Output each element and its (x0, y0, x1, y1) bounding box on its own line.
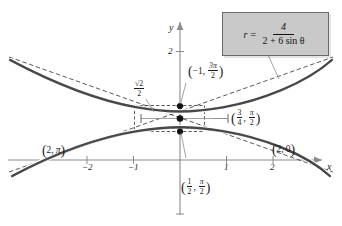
equation-numerator: 4 (273, 22, 294, 35)
y-tick-label-2: 2 (168, 47, 173, 56)
figure-canvas: r = 4 2 + 6 sin θ −2 −1 1 2 2 y x (−1, 3… (0, 0, 342, 226)
leader-upper-vertex (181, 83, 187, 104)
paren-close: ) (206, 182, 211, 193)
upper-vertex-r: −1 (193, 66, 203, 76)
hyperbola-curves-group (10, 60, 332, 176)
lower-vertex-theta: π2 (199, 178, 205, 196)
x-tick-label-1: 1 (224, 163, 229, 172)
y-axis-arrowhead (177, 22, 184, 30)
comma: , (243, 113, 247, 123)
left-intercept-label: (2, π) (42, 145, 65, 156)
paren-open: ( (42, 145, 47, 156)
equation-expression: r = 4 2 + 6 sin θ (243, 22, 307, 46)
center-dot (177, 115, 184, 122)
lower-vertex-label: (12, π2) (181, 179, 210, 197)
leader-equation-to-curve (268, 55, 279, 79)
equation-fraction: 4 2 + 6 sin θ (260, 22, 308, 46)
comma: , (203, 66, 207, 76)
x-tick-label--2: −2 (82, 163, 93, 172)
curve-halo-group (10, 60, 332, 176)
equation-denominator: 2 + 6 sin θ (260, 35, 308, 47)
upper-vertex-theta: 3π2 (208, 62, 218, 80)
x-tick-label--1: −1 (128, 163, 139, 172)
curve-highlight-group (10, 59, 332, 177)
comma: , (193, 182, 197, 192)
center-r: 34 (237, 109, 243, 127)
lower-vertex-r: 12 (187, 178, 193, 196)
sqrt-fraction: √22 (134, 80, 144, 98)
paren-close: ) (219, 66, 224, 77)
right-intercept-label: (2, 0) (272, 144, 295, 155)
point-markers-group (177, 103, 184, 135)
paren-open: ( (188, 66, 193, 77)
equation-lhs: r = (243, 29, 256, 40)
sqrt-numerator: √2 (134, 80, 144, 89)
x-tick-label-2: 2 (270, 163, 275, 172)
semi-axis-measure-label: √22 (133, 81, 145, 99)
paren-open: ( (272, 144, 277, 155)
upper-vertex-dot (177, 103, 183, 109)
lower-vertex-dot (177, 128, 183, 134)
sqrt-denominator: 2 (136, 89, 142, 97)
x-axis-label: x (327, 162, 331, 172)
paren-open: ( (181, 182, 186, 193)
leader-lower-vertex (181, 133, 186, 158)
center-theta: π2 (249, 109, 255, 127)
paren-open: ( (231, 113, 236, 124)
center-label: (34, π2) (231, 110, 260, 128)
upper-vertex-label: (−1, 3π2) (188, 63, 223, 81)
y-axis-label: y (169, 23, 173, 33)
equation-callout-box: r = 4 2 + 6 sin θ (222, 12, 329, 56)
paren-close: ) (290, 144, 295, 155)
upper-branch (10, 60, 332, 112)
paren-close: ) (256, 113, 261, 124)
paren-close: ) (60, 145, 65, 156)
